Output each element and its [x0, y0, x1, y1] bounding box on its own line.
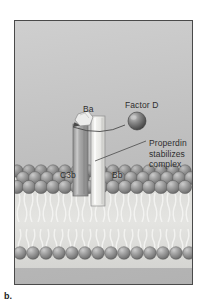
label-bb: Bb: [112, 171, 123, 181]
illustration-panel: Ba Factor D C3b Bb Properdin stabilizes …: [14, 20, 193, 285]
label-c3b: C3b: [60, 171, 76, 181]
figure-root: Ba Factor D C3b Bb Properdin stabilizes …: [0, 0, 207, 308]
properdin-line-2: stabilizes: [149, 149, 193, 160]
label-factor-d: Factor D: [125, 101, 158, 111]
properdin-line-3: complex: [149, 159, 193, 170]
figure-letter: b.: [4, 291, 12, 301]
figure-caption: C3bBb (C3 convertase): [15, 284, 193, 285]
label-properdin-annotation: Properdin stabilizes complex: [149, 138, 193, 170]
label-ba: Ba: [83, 105, 94, 115]
c3b-protein-column: [73, 124, 88, 196]
bb-protein-column: [91, 116, 105, 206]
properdin-line-1: Properdin: [149, 138, 193, 149]
factor-d-sphere: [128, 112, 146, 130]
